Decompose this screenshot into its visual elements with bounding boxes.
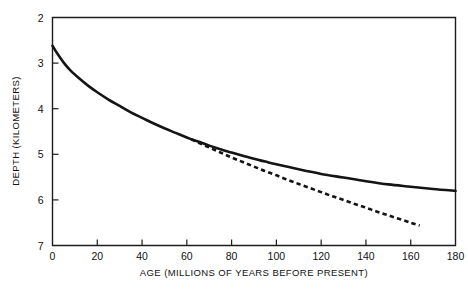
halfspace-cooling-curve <box>191 139 419 225</box>
y-axis-ticks <box>53 63 59 200</box>
y-tick-label: 6 <box>38 194 44 206</box>
plate-model-curve <box>53 46 456 191</box>
x-tick-label: 160 <box>402 250 420 262</box>
x-axis-ticks <box>97 240 410 246</box>
y-tick-label: 7 <box>38 240 44 252</box>
x-tick-label: 100 <box>268 250 286 262</box>
y-tick-label: 3 <box>38 57 44 69</box>
chart-figure: 234567 020406080100120140160180 AGE (MIL… <box>0 0 468 293</box>
x-tick-label: 40 <box>136 250 148 262</box>
x-tick-label: 180 <box>447 250 465 262</box>
x-tick-label: 120 <box>312 250 330 262</box>
y-axis-tick-labels: 234567 <box>38 12 44 252</box>
y-axis-title: DEPTH (KILOMETERS) <box>10 76 21 186</box>
x-tick-label: 140 <box>357 250 375 262</box>
y-tick-label: 5 <box>38 148 44 160</box>
y-tick-label: 4 <box>38 103 44 115</box>
x-tick-label: 0 <box>50 250 56 262</box>
depth-vs-age-chart: 234567 020406080100120140160180 AGE (MIL… <box>0 0 468 293</box>
x-axis-title: AGE (MILLIONS OF YEARS BEFORE PRESENT) <box>140 267 368 278</box>
x-tick-label: 60 <box>181 250 193 262</box>
x-tick-label: 20 <box>91 250 103 262</box>
plot-frame <box>53 18 456 246</box>
x-tick-label: 80 <box>226 250 238 262</box>
x-axis-tick-labels: 020406080100120140160180 <box>50 250 465 262</box>
y-tick-label: 2 <box>38 12 44 24</box>
